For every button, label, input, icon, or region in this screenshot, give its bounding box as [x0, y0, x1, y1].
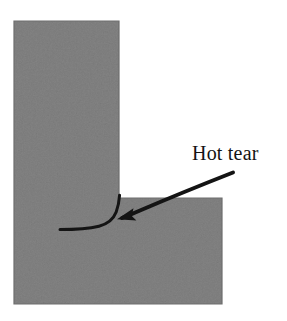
casting-body-group: [14, 21, 222, 304]
casting-body-texture-overlay: [14, 21, 222, 304]
hot-tear-figure: Hot tear: [0, 0, 287, 321]
hot-tear-label: Hot tear: [192, 143, 259, 163]
